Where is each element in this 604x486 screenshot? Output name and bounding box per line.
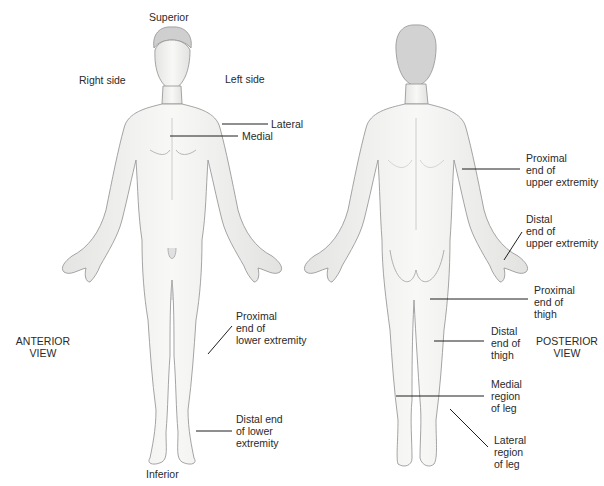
posterior-view-title: POSTERIOR VIEW xyxy=(534,335,600,359)
label-proximal-lower-extremity: Proximal end of lower extremity xyxy=(236,310,307,346)
anterior-figure xyxy=(62,27,281,464)
label-superior: Superior xyxy=(149,11,189,23)
anterior-view-title: ANTERIOR VIEW xyxy=(12,335,74,359)
label-lateral: Lateral xyxy=(271,118,303,130)
label-distal-upper-extremity: Distal end of upper extremity xyxy=(526,213,598,249)
anatomical-directions-diagram: Superior Right side Left side Inferior A… xyxy=(0,0,604,486)
label-inferior: Inferior xyxy=(146,468,179,480)
label-proximal-thigh: Proximal end of thigh xyxy=(534,284,575,320)
label-lateral-region-of-leg: Lateral region of leg xyxy=(494,434,526,470)
leader-lateral-leg xyxy=(450,409,488,447)
label-medial: Medial xyxy=(242,130,273,142)
label-left-side: Left side xyxy=(225,73,265,85)
label-distal-lower-extremity: Distal end of lower extremity xyxy=(236,413,283,449)
label-right-side: Right side xyxy=(79,74,126,86)
label-distal-thigh: Distal end of thigh xyxy=(491,325,520,361)
label-proximal-upper-extremity: Proximal end of upper extremity xyxy=(526,152,598,188)
leader-proximal-lower-extremity xyxy=(208,326,232,354)
label-medial-region-of-leg: Medial region of leg xyxy=(491,378,522,414)
